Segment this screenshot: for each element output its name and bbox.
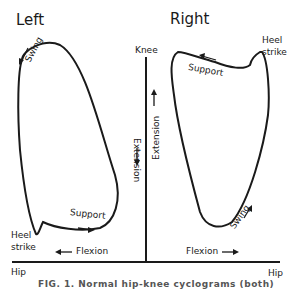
- right-extension-arrowhead: [151, 89, 157, 95]
- hip-axis-right-label: Hip: [268, 268, 283, 278]
- left-heel-strike-label-2: strike: [11, 242, 36, 252]
- right-heel-strike-label-1: Heel: [262, 35, 282, 45]
- left-heel-strike-label-1: Heel: [11, 230, 31, 240]
- left-support-arrowhead: [88, 227, 95, 233]
- right-extension-label: Extension: [151, 116, 161, 160]
- left-cyclogram-curve: [18, 43, 117, 234]
- right-heel-strike-label-2: strike: [262, 47, 287, 57]
- right-flexion-arrowhead: [233, 249, 239, 255]
- right-panel-title: Right: [170, 10, 210, 28]
- left-extension-label: Extension: [132, 138, 142, 182]
- figure-caption: FIG. 1. Normal hip-knee cyclograms (both…: [38, 279, 274, 289]
- left-flexion-arrowhead: [55, 249, 61, 255]
- right-flexion-label: Flexion: [186, 246, 218, 256]
- left-flexion-label: Flexion: [76, 246, 108, 256]
- right-cyclogram-curve: [172, 52, 269, 227]
- knee-axis-label: Knee: [135, 45, 158, 55]
- hip-axis-left-label: Hip: [11, 267, 26, 277]
- left-panel-title: Left: [16, 11, 44, 29]
